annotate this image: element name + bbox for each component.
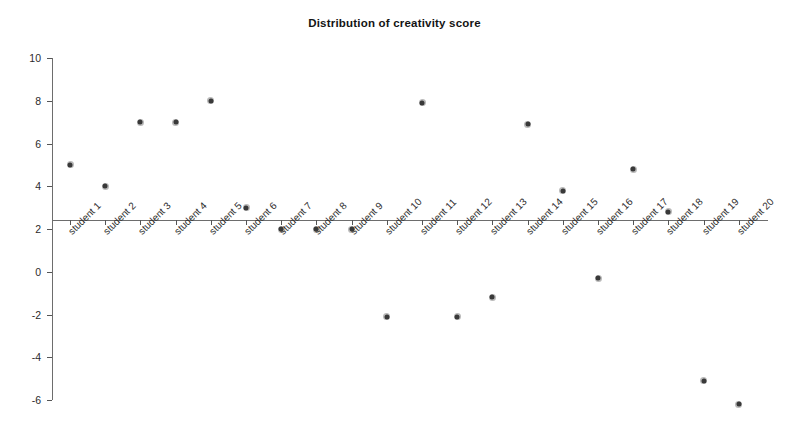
data-point xyxy=(68,162,73,167)
data-point xyxy=(701,378,706,383)
data-point xyxy=(596,276,601,281)
x-tick-label: student 1 xyxy=(66,200,103,237)
x-tick-label: student 13 xyxy=(488,196,529,237)
data-point xyxy=(349,227,354,232)
data-point xyxy=(631,167,636,172)
y-tick-mark xyxy=(47,186,52,187)
data-point xyxy=(666,209,671,214)
y-tick-mark xyxy=(47,272,52,273)
x-tick-label: student 17 xyxy=(629,196,670,237)
x-tick-label: student 3 xyxy=(136,200,173,237)
y-tick-label: 8 xyxy=(15,95,41,107)
data-point xyxy=(314,227,319,232)
data-point xyxy=(244,205,249,210)
data-point xyxy=(103,184,108,189)
data-point xyxy=(208,98,213,103)
data-point xyxy=(173,120,178,125)
data-point xyxy=(455,314,460,319)
x-tick-label: student 5 xyxy=(207,200,244,237)
x-tick-label: student 16 xyxy=(594,196,635,237)
data-point xyxy=(138,120,143,125)
data-point xyxy=(384,314,389,319)
y-tick-mark xyxy=(47,357,52,358)
data-point xyxy=(736,402,741,407)
plot-area: 1086420-2-4-6student 1student 2student 3… xyxy=(0,0,789,428)
data-point xyxy=(420,100,425,105)
y-tick-mark xyxy=(47,315,52,316)
y-tick-label: 6 xyxy=(15,138,41,150)
y-tick-label: 0 xyxy=(15,266,41,278)
x-tick-label: student 2 xyxy=(101,200,138,237)
y-tick-label: -2 xyxy=(15,309,41,321)
y-tick-label: 4 xyxy=(15,180,41,192)
x-tick-label: student 14 xyxy=(524,196,565,237)
y-tick-mark xyxy=(47,144,52,145)
data-point xyxy=(279,227,284,232)
y-tick-mark xyxy=(47,229,52,230)
x-tick-label: student 12 xyxy=(453,196,494,237)
x-tick-label: student 18 xyxy=(664,196,705,237)
x-tick-label: student 4 xyxy=(172,200,209,237)
y-axis-line xyxy=(52,58,53,400)
chart-root: Distribution of creativity score 1086420… xyxy=(0,0,789,428)
data-point xyxy=(525,122,530,127)
y-tick-mark xyxy=(47,101,52,102)
x-tick-label: student 19 xyxy=(700,196,741,237)
y-tick-label: -6 xyxy=(15,394,41,406)
data-point xyxy=(490,295,495,300)
data-point xyxy=(560,188,565,193)
y-tick-label: 10 xyxy=(15,52,41,64)
x-tick-label: student 10 xyxy=(383,196,424,237)
y-tick-mark xyxy=(47,400,52,401)
y-tick-label: 2 xyxy=(15,223,41,235)
y-tick-mark xyxy=(47,58,52,59)
y-tick-label: -4 xyxy=(15,351,41,363)
